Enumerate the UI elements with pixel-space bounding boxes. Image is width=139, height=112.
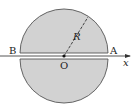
label-r: R: [72, 31, 81, 42]
label-b: B: [9, 45, 16, 56]
label-x: x: [123, 57, 129, 68]
center-point: [62, 54, 65, 57]
upper-half-disc: [20, 9, 108, 53]
split-disc-diagram: B A O R x: [0, 0, 139, 112]
label-a: A: [109, 45, 118, 56]
label-o: O: [60, 60, 68, 71]
